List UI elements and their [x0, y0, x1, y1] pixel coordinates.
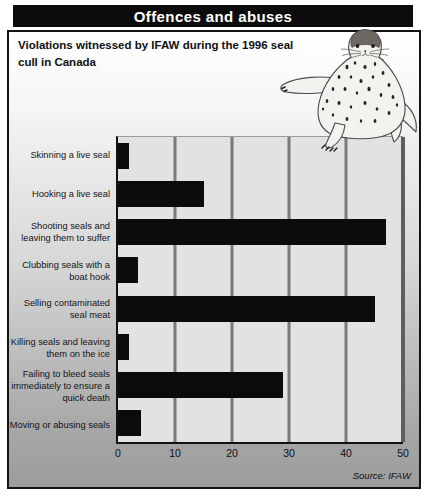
bar-row	[118, 213, 403, 251]
bar	[118, 219, 386, 245]
category-label: Killing seals and leaving them on the ic…	[6, 329, 114, 368]
bar	[118, 334, 129, 360]
bars	[118, 137, 403, 442]
bar	[118, 257, 138, 283]
x-axis-tick: 20	[226, 447, 238, 459]
plot-area	[116, 136, 403, 444]
bar	[118, 143, 129, 169]
category-label: Selling contaminated seal meat	[6, 290, 114, 329]
category-label: Moving or abusing seals	[6, 406, 114, 445]
bar	[118, 410, 141, 436]
category-label: Hooking a live seal	[6, 175, 114, 214]
bar	[118, 181, 204, 207]
page-title: Offences and abuses	[134, 8, 293, 25]
x-axis-tick: 50	[397, 447, 409, 459]
category-label: Clubbing seals with a boat hook	[6, 252, 114, 291]
x-axis-tick: 30	[283, 447, 295, 459]
category-label: Skinning a live seal	[6, 136, 114, 175]
source-credit: Source: IFAW	[353, 470, 411, 481]
bar-row	[118, 328, 403, 366]
x-axis-tick: 40	[340, 447, 352, 459]
title-bar: Offences and abuses	[13, 5, 413, 27]
infographic-page: Offences and abuses Violations witnessed…	[0, 0, 426, 500]
seal-illustration	[277, 27, 424, 154]
x-axis-tick: 10	[169, 447, 181, 459]
chart-subtitle: Violations witnessed by IFAW during the …	[18, 37, 300, 72]
x-axis-tick: 0	[115, 447, 121, 459]
bar	[118, 296, 375, 322]
bar-row	[118, 251, 403, 289]
bar-row	[118, 175, 403, 213]
bar	[118, 372, 283, 398]
bar-row	[118, 290, 403, 328]
bar-row	[118, 366, 403, 404]
category-label: Shooting seals and leaving them to suffe…	[6, 213, 114, 252]
category-label: Failing to bleed seals immediately to en…	[6, 367, 114, 406]
bar-row	[118, 404, 403, 442]
category-labels: Skinning a live sealHooking a live sealS…	[6, 136, 114, 444]
x-axis: 01020304050	[118, 447, 403, 461]
